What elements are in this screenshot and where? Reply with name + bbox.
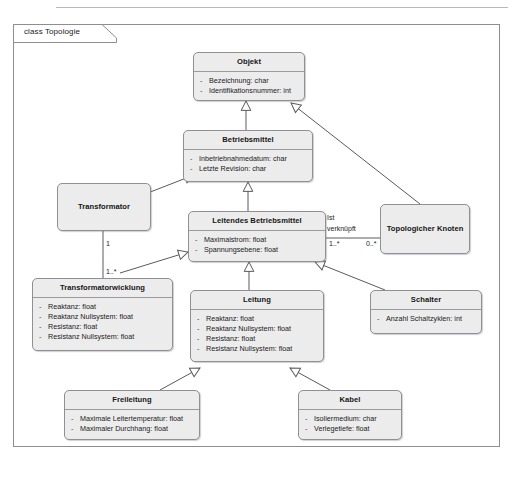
attribute-visibility-marker: - xyxy=(195,245,204,255)
class-attribute: -Inbetriebnahmedatum: char xyxy=(190,154,308,164)
attribute-text: Reaktanz Nullsystem: float xyxy=(48,312,133,322)
attribute-text: Resistanz: float xyxy=(48,322,97,332)
attribute-text: Reaktanz: float xyxy=(48,302,96,312)
class-attributes-transformatorwicklung: -Reaktanz: float -Reaktanz Nullsystem: f… xyxy=(33,298,172,347)
class-attributes-leitung: -Reaktanz: float -Reaktanz Nullsystem: f… xyxy=(191,310,323,359)
attribute-text: Maximale Leitertemperatur: float xyxy=(80,414,183,424)
class-box-transformatorwicklung[interactable]: Transformatorwicklung -Reaktanz: float -… xyxy=(32,278,173,351)
attribute-text: Maximalstrom: float xyxy=(204,235,266,245)
class-attribute: -Isoliermedium: char xyxy=(305,414,397,424)
attribute-text: Verlegetiefe: float xyxy=(314,424,370,434)
attribute-visibility-marker: - xyxy=(377,314,386,324)
class-attribute: -Verlegetiefe: float xyxy=(305,424,397,434)
generalization-schalter-to-leitendes xyxy=(315,262,385,290)
multiplicity-topologicher-knoten: 0..* xyxy=(366,239,377,248)
attribute-visibility-marker: - xyxy=(197,344,206,354)
multiplicity-transformatorwicklung: 1..* xyxy=(106,267,117,276)
attribute-visibility-marker: - xyxy=(305,424,314,434)
class-box-schalter[interactable]: Schalter -Anzahl Schaltzyklen: int xyxy=(370,290,482,334)
attribute-visibility-marker: - xyxy=(197,334,206,344)
class-attribute: -Reaktanz Nullsystem: float xyxy=(39,312,168,322)
class-title-kabel: Kabel xyxy=(299,391,401,409)
class-attribute: -Reaktanz Nullsystem: float xyxy=(197,324,319,334)
attribute-text: Identifikationsnummer: int xyxy=(209,86,291,96)
attribute-text: Letzte Revision: char xyxy=(199,164,266,174)
attribute-visibility-marker: - xyxy=(71,424,80,434)
frame-name-tab: class Topologie xyxy=(13,24,117,42)
class-attributes-leitendes-betriebsmittel: -Maximalstrom: float -Spannungsebene: fl… xyxy=(189,231,325,260)
class-box-kabel[interactable]: Kabel -Isoliermedium: char -Verlegetiefe… xyxy=(298,390,402,440)
class-attribute: -Letzte Revision: char xyxy=(190,164,308,174)
class-attributes-betriebsmittel: -Inbetriebnahmedatum: char -Letzte Revis… xyxy=(184,150,312,179)
class-box-freileitung[interactable]: Freileitung -Maximale Leitertemperatur: … xyxy=(64,390,200,440)
uml-diagram-canvas: class Topologie Objekt -Bezeichnung: cha… xyxy=(0,0,514,477)
attribute-visibility-marker: - xyxy=(190,154,199,164)
class-title-freileitung: Freileitung xyxy=(65,391,199,409)
attribute-visibility-marker: - xyxy=(200,76,209,86)
attribute-visibility-marker: - xyxy=(39,322,48,332)
association-label-line2: verknüpft xyxy=(327,224,356,233)
class-attributes-kabel: -Isoliermedium: char -Verlegetiefe: floa… xyxy=(299,410,401,439)
class-attributes-objekt: -Bezeichnung: char -Identifikationsnumme… xyxy=(194,72,304,101)
attribute-visibility-marker: - xyxy=(71,414,80,424)
generalization-freileitung-to-leitung xyxy=(160,368,200,390)
class-box-objekt[interactable]: Objekt -Bezeichnung: char -Identifikatio… xyxy=(193,52,305,101)
class-attribute: -Bezeichnung: char xyxy=(200,76,300,86)
class-attributes-freileitung: -Maximale Leitertemperatur: float -Maxim… xyxy=(65,410,199,439)
class-title-leitendes-betriebsmittel: Leitendes Betriebsmittel xyxy=(189,212,325,230)
class-attribute: -Maximaler Durchhang: float xyxy=(71,424,195,434)
class-attribute: -Anzahl Schaltzyklen: int xyxy=(377,314,477,324)
frame-label: class Topologie xyxy=(24,27,80,36)
class-title-transformator: Transformator xyxy=(78,202,130,212)
class-attribute: -Spannungsebene: float xyxy=(195,245,321,255)
multiplicity-leitendes-betriebsmittel: 1..* xyxy=(329,239,340,248)
attribute-visibility-marker: - xyxy=(197,324,206,334)
class-attribute: -Resistanz: float xyxy=(39,322,168,332)
attribute-text: Resistanz Nullsystem: float xyxy=(48,332,134,342)
attribute-text: Isoliermedium: char xyxy=(314,414,377,424)
class-attribute: -Reaktanz: float xyxy=(39,302,168,312)
attribute-text: Reaktanz: float xyxy=(206,314,254,324)
attribute-visibility-marker: - xyxy=(190,164,199,174)
attribute-visibility-marker: - xyxy=(39,332,48,342)
class-title-objekt: Objekt xyxy=(194,53,304,71)
class-box-transformator[interactable]: Transformator xyxy=(57,183,151,231)
class-attribute: -Reaktanz: float xyxy=(197,314,319,324)
class-attribute: -Identifikationsnummer: int xyxy=(200,86,300,96)
attribute-visibility-marker: - xyxy=(39,302,48,312)
attribute-visibility-marker: - xyxy=(39,312,48,322)
association-label-line1: Ist xyxy=(327,213,334,222)
generalization-kabel-to-leitung xyxy=(290,368,330,390)
class-attribute: -Maximale Leitertemperatur: float xyxy=(71,414,195,424)
attribute-visibility-marker: - xyxy=(305,414,314,424)
class-box-topologicher-knoten[interactable]: Topologicher Knoten xyxy=(380,204,470,254)
attribute-text: Inbetriebnahmedatum: char xyxy=(199,154,287,164)
class-title-betriebsmittel: Betriebsmittel xyxy=(184,131,312,149)
class-attribute: -Resistanz Nullsystem: float xyxy=(39,332,168,342)
attribute-text: Resistanz: float xyxy=(206,334,255,344)
multiplicity-transformator: 1 xyxy=(106,239,110,248)
attribute-text: Anzahl Schaltzyklen: int xyxy=(386,314,462,324)
class-attribute: -Resistanz Nullsystem: float xyxy=(197,344,319,354)
class-box-betriebsmittel[interactable]: Betriebsmittel -Inbetriebnahmedatum: cha… xyxy=(183,130,313,182)
attribute-text: Reaktanz Nullsystem: float xyxy=(206,324,291,334)
attribute-visibility-marker: - xyxy=(197,314,206,324)
class-title-schalter: Schalter xyxy=(371,291,481,309)
attribute-visibility-marker: - xyxy=(200,86,209,96)
class-attribute: -Maximalstrom: float xyxy=(195,235,321,245)
attribute-visibility-marker: - xyxy=(195,235,204,245)
class-attribute: -Resistanz: float xyxy=(197,334,319,344)
attribute-text: Resistanz Nullsystem: float xyxy=(206,344,292,354)
generalization-wicklung-to-leitendes xyxy=(120,252,188,273)
class-box-leitendes-betriebsmittel[interactable]: Leitendes Betriebsmittel -Maximalstrom: … xyxy=(188,211,326,262)
attribute-text: Bezeichnung: char xyxy=(209,76,269,86)
attribute-text: Maximaler Durchhang: float xyxy=(80,424,168,434)
class-title-leitung: Leitung xyxy=(191,291,323,309)
class-attributes-schalter: -Anzahl Schaltzyklen: int xyxy=(371,310,481,329)
class-box-leitung[interactable]: Leitung -Reaktanz: float -Reaktanz Nulls… xyxy=(190,290,324,362)
attribute-text: Spannungsebene: float xyxy=(204,245,278,255)
class-title-transformatorwicklung: Transformatorwicklung xyxy=(33,279,172,297)
class-title-topologicher-knoten: Topologicher Knoten xyxy=(381,224,469,234)
